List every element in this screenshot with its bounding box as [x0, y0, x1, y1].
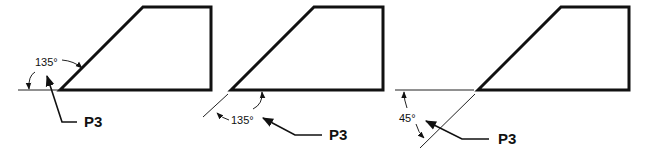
leader-arrow [263, 118, 322, 135]
angle-label: 135° [231, 114, 254, 126]
angle-arc-arrow [62, 60, 82, 68]
angle-arc-arrow [416, 124, 424, 138]
trapezoid-shape [478, 7, 629, 90]
angle-diagram: 135° P3 135° P3 45° P3 [0, 0, 645, 161]
panel-2: 135° P3 [203, 7, 383, 143]
angle-arc-arrow [29, 72, 35, 89]
extension-line [203, 94, 228, 117]
leader-arrow [47, 76, 77, 122]
trapezoid-shape [231, 7, 383, 90]
panel-1: 135° P3 [18, 7, 211, 130]
point-label: P3 [329, 126, 347, 143]
angle-arc-arrow [253, 92, 262, 109]
angle-arc-arrow [217, 113, 229, 120]
angle-arc-arrow [404, 92, 407, 108]
panel-3: 45° P3 [395, 7, 629, 148]
angle-label: 135° [35, 56, 58, 68]
point-label: P3 [84, 113, 102, 130]
leader-arrow [426, 121, 489, 139]
extension-line [420, 94, 475, 148]
trapezoid-shape [60, 7, 211, 90]
angle-label: 45° [399, 112, 416, 124]
point-label: P3 [498, 130, 516, 147]
